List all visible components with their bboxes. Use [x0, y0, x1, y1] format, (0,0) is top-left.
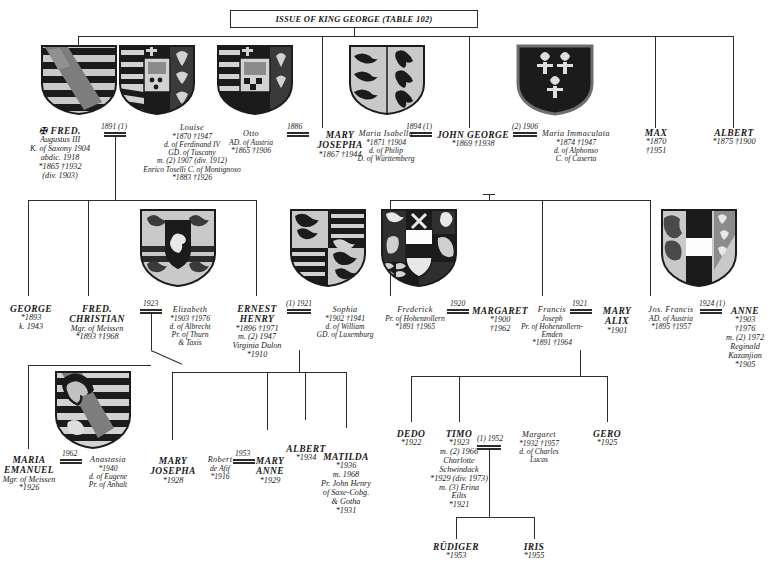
person-max: MAX *1870 †1951 — [628, 128, 684, 156]
line-gen2-bus-left — [28, 200, 256, 201]
line-drop-anne2 — [650, 200, 651, 296]
person-fred-christian: FRED. CHRISTIAN Mgr. of Meissen *1893 †1… — [58, 304, 136, 342]
table-header-title: ISSUE OF KING GEORGE (TABLE 102) — [276, 14, 433, 24]
person-line: *1875 †1900 — [694, 138, 774, 147]
line-gen1-bus — [78, 36, 733, 37]
person-name: ERNEST — [224, 304, 290, 314]
shield-saxony — [40, 44, 118, 116]
line-drop-maryalix — [542, 200, 543, 296]
person-maria-immaculata: Maria Immaculata *1874 †1947 d. of Alpho… — [530, 130, 622, 163]
person-line: JOSEPHA — [144, 466, 202, 476]
line-drop-gero — [607, 376, 608, 422]
shield-austria-tuscany — [216, 44, 294, 116]
person-otto: Otto AD. of Austria *1865 †1906 — [215, 130, 287, 155]
shield-wurttemberg — [348, 44, 426, 116]
person-line: †1951 — [628, 147, 684, 156]
line-drop-maryjosepha — [322, 36, 323, 128]
person-maria-emanuel: MARIA EMANUEL Mgr. of Meissen *1926 — [0, 455, 58, 493]
person-matilda: MATILDA *1936 m. 1968 Pr. John Henry of … — [310, 452, 382, 515]
line-drop-albert34 — [305, 372, 306, 420]
line-drop-maryjosepha28 — [172, 372, 173, 440]
person-name: MARY — [592, 306, 642, 316]
person-albert-1875: ALBERT *1875 †1900 — [694, 128, 774, 147]
person-ernest-henry: ERNEST HENRY *1896 †1971 m. (2) 1947 Vir… — [224, 304, 290, 360]
person-line: *1895 †1957 — [636, 323, 706, 331]
person-timo: TIMO *1923 m. (2) 1966 Charlotte Schwind… — [422, 429, 496, 510]
line-drop-max — [655, 36, 656, 128]
person-line: *1891 †1965 — [376, 323, 454, 331]
person-anastasia: Anastasia *1940 d. of Eugene Pr. of Anha… — [72, 456, 144, 489]
person-line: *1928 — [144, 477, 202, 486]
shield-anhalt — [54, 370, 132, 450]
person-name: FRED. — [58, 304, 136, 314]
person-line: k. 1943 — [2, 323, 60, 332]
person-line: *1901 — [592, 327, 642, 336]
marriage-year-otto-mary: 1886 — [287, 122, 302, 131]
person-margaret-lucas: Margaret *1932 †1957 d. of Charles Lucas — [500, 431, 578, 464]
line-drop-johngeorge — [469, 36, 470, 128]
line-drop-maryanne — [267, 372, 268, 430]
line-drop-rudiger — [456, 517, 457, 539]
person-line: Lucas — [500, 456, 578, 464]
person-line: HENRY — [224, 314, 290, 324]
line-gen3-bus-ernest — [172, 372, 346, 373]
line-gen2-bus-right — [390, 200, 650, 201]
line-drop-albert — [733, 36, 734, 128]
person-name: MARIA — [0, 455, 58, 465]
person-line: & Taxis — [152, 339, 228, 347]
person-fred-augustus: ✠ FRED. Augustus III K. of Saxony 1904 a… — [10, 126, 110, 181]
person-line: GD. of Luxemburg — [300, 331, 390, 339]
table-header-box: ISSUE OF KING GEORGE (TABLE 102) — [230, 10, 478, 28]
person-line: *1893 †1968 — [58, 333, 136, 342]
line-header-drop — [354, 28, 355, 36]
person-line: *1869 †1938 — [430, 140, 516, 149]
person-line: *1910 — [224, 351, 290, 360]
person-francis-joseph: Francis Joseph Pr. of Hohenzollern- Emde… — [512, 306, 592, 348]
person-line: Pr. of Anhalt — [72, 481, 144, 489]
person-frederick: Frederick Pr. of Hohenzollern *1891 †196… — [376, 306, 454, 331]
person-robert-de-afif: Robert de Afif *1916 — [198, 456, 242, 481]
line-gen4-bus — [456, 517, 534, 518]
shield-austria — [660, 208, 738, 288]
line-drop-fredchristian — [88, 200, 89, 296]
person-line: *1921 — [422, 501, 496, 510]
person-line: *1891 †1964 — [512, 339, 592, 347]
shield-tuscany — [118, 44, 196, 116]
shield-hohenzollern — [380, 208, 458, 288]
line-drop-iris — [534, 517, 535, 539]
shield-bourbon-sicily — [516, 44, 594, 116]
person-line: *1931 — [310, 507, 382, 516]
line-gen3-bus-left — [28, 365, 151, 366]
line-drop-timo — [459, 376, 460, 422]
person-line: EMANUEL — [0, 465, 58, 475]
person-elizabeth: Elizabeth *1903 †1976 d. of Albrecht Pr.… — [152, 306, 228, 348]
person-mary-josepha-1928: MARY JOSEPHA *1928 — [144, 456, 202, 485]
person-line: C. of Caserta — [530, 155, 622, 163]
line-drop-matilda — [346, 372, 347, 428]
person-maria-isabella: Maria Isabella *1871 †1904 d. of Philip … — [344, 130, 428, 163]
person-name: MARY — [144, 456, 202, 466]
line-drop-ernesthenry — [256, 200, 257, 296]
person-line: *1925 — [582, 439, 632, 448]
person-jos-francis: Jos. Francis AD. of Austria *1895 †1957 — [636, 306, 706, 331]
person-mary-alix: MARY ALIX *1901 — [592, 306, 642, 335]
line-johngeorge-hook — [483, 194, 495, 195]
line-diagonal-fredchr — [151, 350, 182, 365]
line-drop-george — [28, 200, 29, 296]
person-gero: GERO *1925 — [582, 429, 632, 448]
person-line: *1955 — [506, 552, 562, 561]
line-gen3-bus-right — [411, 376, 607, 377]
person-line: (div. 1903) — [10, 172, 110, 181]
person-george: GEORGE *1893 k. 1943 — [2, 304, 60, 332]
line-drop-mariaemanuel — [28, 365, 29, 449]
person-line: CHRISTIAN — [58, 314, 136, 324]
person-iris: IRIS *1955 — [506, 542, 562, 561]
shield-luxemburg — [289, 208, 367, 288]
person-line: D. of Württemberg — [344, 155, 428, 163]
person-line: ANNE — [248, 466, 292, 476]
shield-meissen — [139, 208, 217, 288]
person-line: *1929 — [248, 477, 292, 486]
person-line: *1953 — [424, 552, 488, 561]
person-john-george: JOHN GEORGE *1869 †1938 — [430, 130, 516, 149]
person-anne: ANNE *1903 †1976 m. (2) 1972 Reginald Ka… — [714, 306, 776, 369]
